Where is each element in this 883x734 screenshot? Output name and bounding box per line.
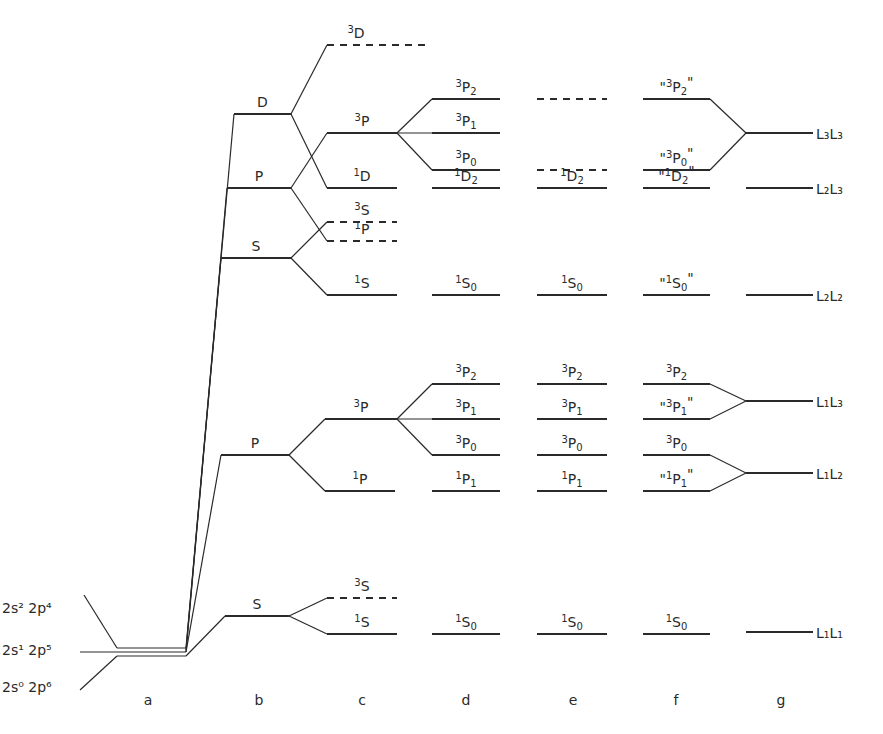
label-d-3P0-upper: 3P0	[455, 149, 476, 168]
connector-line	[397, 384, 432, 419]
label-f-3P2-lower: 3P2	[666, 363, 687, 382]
column-label-d: d	[462, 692, 471, 708]
column-label-a: a	[144, 692, 153, 708]
connector-line	[291, 45, 327, 114]
column-label-b: b	[255, 692, 264, 708]
label-g-L1L1: L₁L₁	[816, 625, 843, 641]
label-e-3P0: 3P0	[561, 434, 582, 453]
label-c-1S-upper: 1S	[354, 274, 369, 291]
connector-line	[710, 99, 746, 133]
energy-level-diagram: DPSPS3D3P1D3S1P1S3P1P3S1S3P23P13P01D21S0…	[0, 0, 883, 734]
connector-line	[84, 595, 117, 648]
label-c-1P-upper: 1P	[355, 220, 370, 237]
label-b-P-lower: P	[251, 435, 259, 451]
column-label-e: e	[569, 692, 578, 708]
connector-line	[80, 656, 117, 690]
label-d-3P2-lower: 3P2	[455, 363, 476, 382]
connector-line	[397, 133, 432, 170]
label-f-3P1: "3P1"	[659, 394, 693, 417]
column-label-f: f	[674, 692, 680, 708]
connector-line	[710, 455, 746, 473]
label-d-1S0-upper: 1S0	[455, 274, 477, 293]
label-f-1D2: "1D2"	[658, 163, 694, 186]
connector-line	[291, 258, 327, 295]
label-d-1P1: 1P1	[455, 470, 476, 489]
label-d-3P0-lower: 3P0	[455, 434, 476, 453]
label-g-L3L3: L₃L₃	[816, 126, 843, 142]
connector-line	[289, 455, 325, 491]
connector-line	[397, 419, 432, 455]
connector-line	[186, 258, 221, 652]
label-f-3P2-upper: "3P2"	[659, 74, 693, 97]
label-e-1S0-upper: 1S0	[561, 274, 583, 293]
connector-line	[186, 455, 221, 652]
label-f-1S0-lower: 1S0	[666, 613, 688, 632]
config-label-2s2-2p4: 2s² 2p⁴	[2, 600, 52, 616]
column-labels: abcdefg	[144, 692, 786, 708]
label-b-P-upper: P	[255, 168, 263, 184]
label-c-1S-lower: 1S	[354, 613, 369, 630]
label-g-L1L3: L₁L₃	[816, 394, 843, 410]
label-e-3P1: 3P1	[561, 398, 582, 417]
energy-levels	[221, 45, 813, 634]
label-e-3P2: 3P2	[561, 363, 582, 382]
label-c-3P-lower: 3P	[354, 398, 369, 415]
connector-line	[710, 384, 746, 401]
label-e-1P1: 1P1	[561, 470, 582, 489]
label-d-1S0-lower: 1S0	[455, 613, 477, 632]
diagram-canvas: DPSPS3D3P1D3S1P1S3P1P3S1S3P23P13P01D21S0…	[0, 0, 883, 734]
label-b-S-lower: S	[253, 596, 262, 612]
connector-line	[291, 114, 327, 188]
label-b-D: D	[257, 94, 268, 110]
label-g-L2L2: L₂L₂	[816, 288, 843, 304]
config-label-2s0-2p6: 2s⁰ 2p⁶	[2, 679, 52, 695]
column-label-c: c	[358, 692, 366, 708]
connector-line	[397, 99, 432, 133]
label-d-3P1-upper: 3P1	[455, 112, 476, 131]
label-c-3P-upper: 3P	[355, 112, 370, 129]
label-c-1P-lower: 1P	[353, 470, 368, 487]
label-b-S-upper: S	[252, 238, 261, 254]
column-label-g: g	[777, 692, 786, 708]
label-d-3P2-upper: 3P2	[455, 78, 476, 97]
label-f-1P1: "1P1"	[659, 466, 693, 489]
label-c-3S-lower: 3S	[354, 577, 369, 594]
connector-lines	[80, 45, 746, 690]
connector-line	[289, 419, 325, 455]
connector-line	[710, 133, 746, 170]
connector-line	[291, 222, 327, 258]
label-e-1S0-lower: 1S0	[561, 613, 583, 632]
connector-line	[710, 473, 746, 491]
label-d-3P1-lower: 3P1	[455, 398, 476, 417]
configuration-labels: 2s² 2p⁴2s¹ 2p⁵2s⁰ 2p⁶	[2, 600, 52, 695]
connector-line	[289, 598, 327, 616]
config-label-2s1-2p5: 2s¹ 2p⁵	[2, 642, 52, 658]
level-labels: DPSPS3D3P1D3S1P1S3P1P3S1S3P23P13P01D21S0…	[251, 24, 843, 641]
label-c-3D: 3D	[347, 24, 364, 41]
label-c-3S-upper: 3S	[354, 201, 369, 218]
label-g-L2L3: L₂L₃	[816, 181, 843, 197]
label-g-L1L2: L₁L₂	[816, 466, 843, 482]
label-c-1D: 1D	[353, 167, 370, 184]
connector-line	[289, 616, 327, 634]
label-f-3P0-lower: 3P0	[666, 434, 687, 453]
connector-line	[291, 133, 327, 188]
connector-line	[710, 401, 746, 419]
label-f-1S0-upper: "1S0"	[659, 270, 694, 293]
connector-line	[291, 188, 327, 241]
